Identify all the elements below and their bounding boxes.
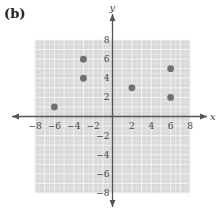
data-point [51,104,58,111]
y-axis-label: y [109,2,116,13]
scatter-plot: xy−8−6−4−224688642−2−4−6−8 [0,0,220,213]
x-tick-label: 8 [187,121,193,131]
y-tick-label: −8 [96,188,110,198]
x-tick-label: 2 [129,121,135,131]
x-tick-label: −8 [28,121,42,131]
data-point [80,75,87,82]
y-tick-label: −2 [96,131,109,141]
x-tick-label: −6 [48,121,62,131]
y-tick-label: −4 [96,150,110,160]
data-point [80,56,87,63]
y-axis-arrow-down-icon [110,200,116,207]
x-axis-arrow-left-icon [12,114,19,120]
y-tick-label: 4 [104,73,110,83]
x-axis-arrow-right-icon [200,114,207,120]
y-tick-label: 2 [104,92,110,102]
y-axis-arrow-up-icon [110,14,116,21]
data-point [167,94,174,101]
data-point [167,65,174,72]
y-tick-label: 6 [104,54,110,64]
x-tick-label: −4 [67,121,81,131]
x-tick-label: 6 [168,121,174,131]
x-tick-label: 4 [148,121,154,131]
x-tick-label: −2 [86,121,99,131]
data-point [128,84,135,91]
y-tick-label: 8 [104,35,110,45]
x-axis-label: x [210,111,216,122]
y-tick-label: −6 [96,169,110,179]
